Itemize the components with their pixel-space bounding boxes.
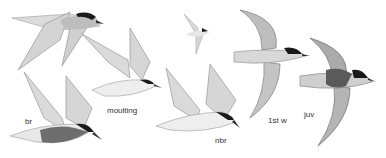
tern-moulting <box>82 28 162 96</box>
tern-breeding <box>10 72 102 143</box>
tern-first-winter <box>234 10 310 118</box>
label-moulting: moulting <box>107 106 137 115</box>
tern-juvenile <box>300 38 376 146</box>
birds-drawing <box>0 0 386 158</box>
label-breeding: br <box>25 117 32 126</box>
tern-non-breeding <box>156 64 240 131</box>
tern-distant <box>184 14 210 54</box>
label-first-winter: 1st w <box>268 116 287 125</box>
label-non-breeding: nbr <box>215 136 227 145</box>
label-juvenile: juv <box>304 110 314 119</box>
tern-plate-illustration: br moulting nbr 1st w juv <box>0 0 386 158</box>
